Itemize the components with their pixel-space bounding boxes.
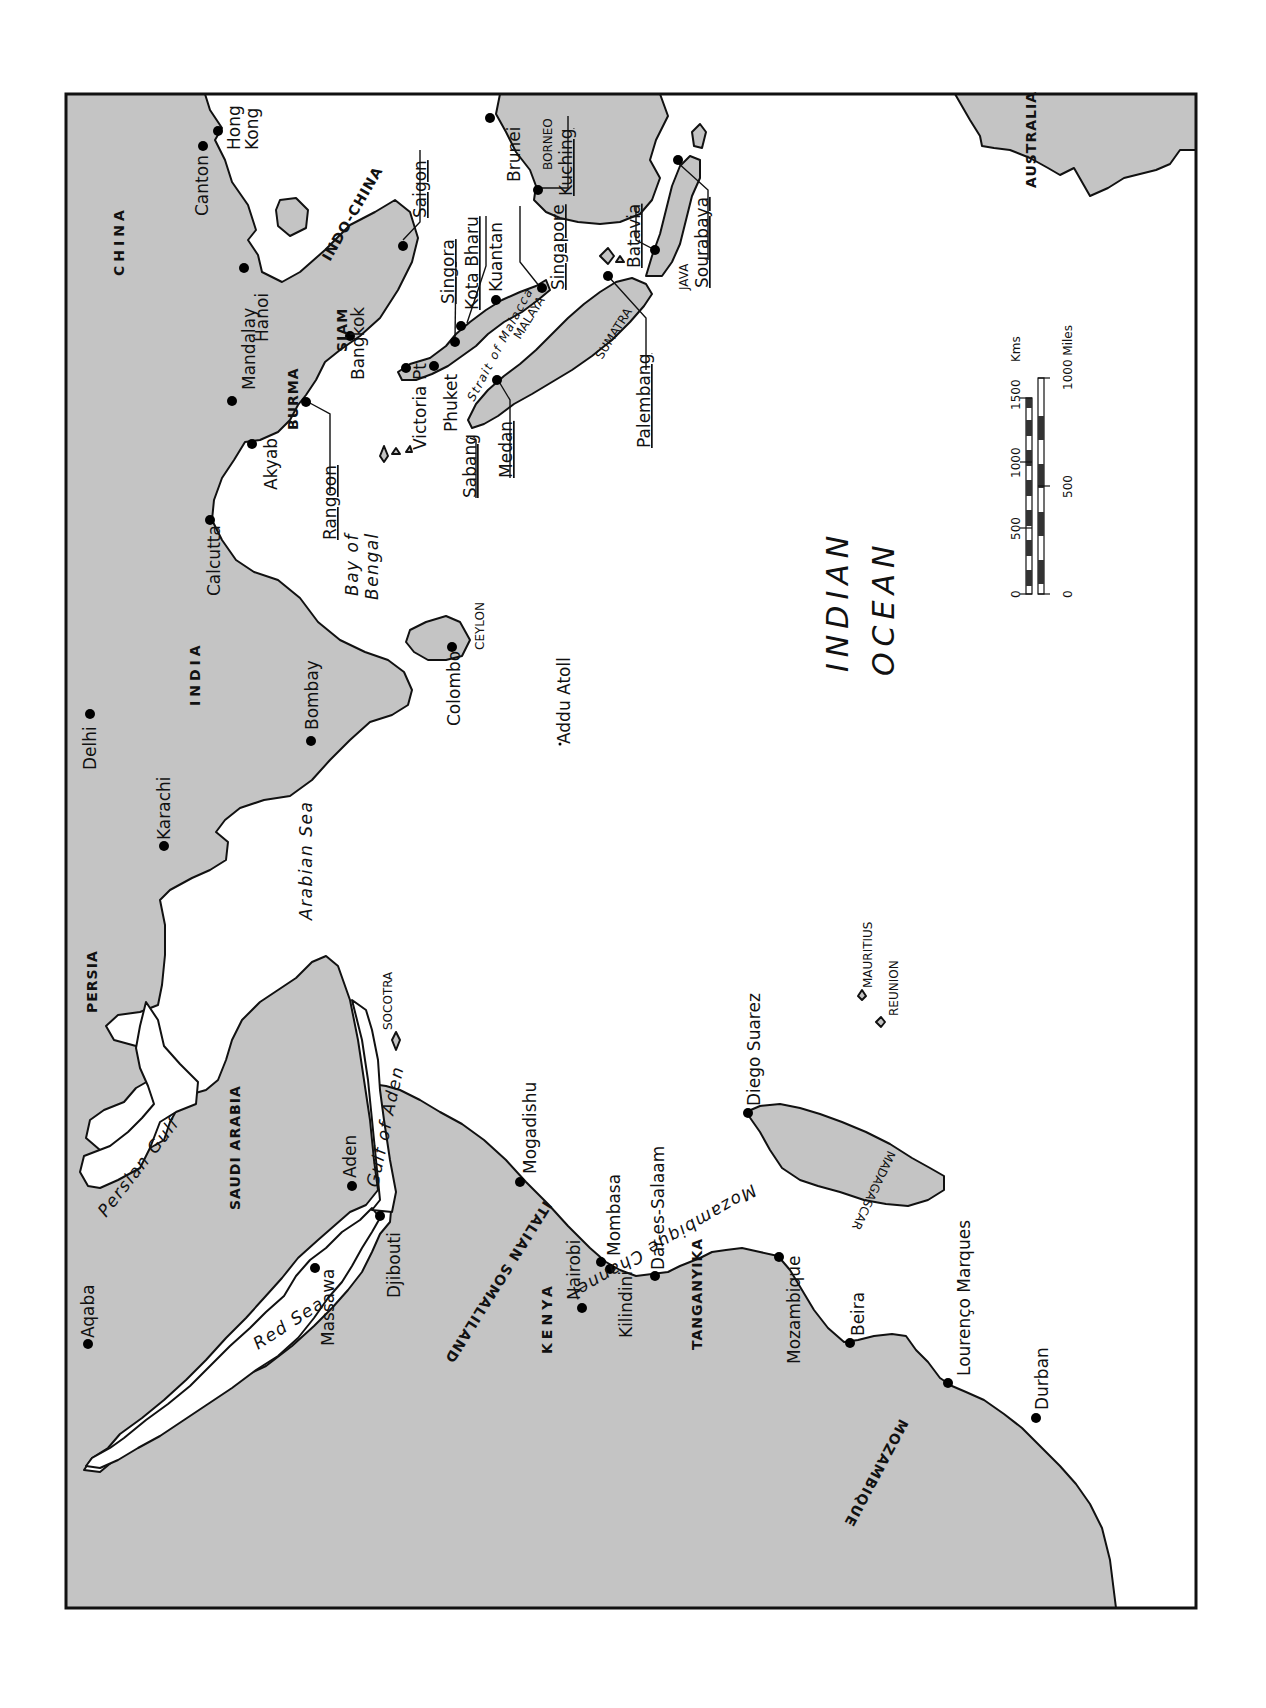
dot-delhi [85,709,95,719]
label-bay-of: Bay of [342,532,362,596]
dot-akyab [247,439,257,449]
dot-nairobi [577,1303,587,1313]
label-singora: Singora [438,239,458,304]
dot-saigon [398,241,408,251]
label-burma: BURMA [285,367,301,430]
label-ocean: OCEAN [866,540,901,676]
dot-sourabaya [673,155,683,165]
label-rangoon: Rangoon [320,465,340,540]
label-sourabaya: Sourabaya [692,197,712,288]
scale-kms-500: 500 [1009,517,1023,540]
dot-mandalay [227,396,237,406]
label-canton: Canton [192,155,212,216]
label-ceylon: CEYLON [473,602,487,650]
dot-bombay [306,736,316,746]
label-china: CHINA [111,206,127,276]
label-mozambique-city: Mozambique [784,1255,804,1364]
dot-djibouti [375,1211,385,1221]
label-bombay: Bombay [302,660,322,730]
label-lourenco-marques: Lourenço Marques [954,1220,974,1376]
dot-mogadishu [515,1177,525,1187]
label-hong: Hong [224,105,244,150]
scale-kms-1500: 1500 [1009,379,1023,410]
scale-kms-1000: 1000 [1009,447,1023,478]
label-mauritius: MAURITIUS [861,922,875,989]
dot-batavia [650,245,660,255]
dot-kota-bharu [456,321,466,331]
dot-palembang [603,271,613,281]
dot-hanoi [239,263,249,273]
label-massawa: Massawa [318,1268,338,1346]
label-saudi-arabia: SAUDI ARABIA [227,1085,243,1210]
dot-phuket [429,361,439,371]
label-batavia: Batavia [624,204,644,268]
label-brunei: Brunei [504,127,524,182]
label-durban: Durban [1032,1347,1052,1410]
label-victoria-pt: Victoria Pt [410,363,430,450]
scale-miles-0: 0 [1061,590,1075,598]
dot-rangoon [301,397,311,407]
dot-singapore [537,283,547,293]
dot-lourenco-marques [943,1378,953,1388]
label-phuket: Phuket [441,374,461,432]
label-mombasa: Mombasa [604,1174,624,1256]
label-kuching: Kuching [556,129,576,197]
dot-kuching [533,185,543,195]
label-palembang: Palembang [634,354,654,448]
label-persia: PERSIA [84,950,100,1013]
label-djibouti: Djibouti [384,1232,404,1298]
label-arabian-sea: Arabian Sea [296,801,316,921]
label-reunion: REUNION [887,960,901,1016]
dot-dar-es-salaam [650,1271,660,1281]
label-kota-bharu: Kota Bharu [462,216,482,310]
label-saigon: Saigon [410,160,430,218]
dot-singora [450,337,460,347]
label-india: INDIA [187,641,203,706]
label-socotra: SOCOTRA [381,971,395,1030]
label-beira: Beira [848,1292,868,1336]
scale-miles-500: 500 [1061,475,1075,498]
scale-kms-0: 0 [1009,590,1023,598]
label-kenya: KENYA [539,1282,555,1354]
label-diego-suarez: Diego Suarez [744,993,764,1106]
label-singapore: Singapore [548,204,568,290]
dot-medan [492,375,502,385]
label-delhi: Delhi [80,726,100,770]
dot-beira [845,1338,855,1348]
scale-miles-label: 1000 Miles [1061,325,1075,390]
label-karachi: Karachi [154,776,174,840]
label-dar-es-salaam: Dar-es-Salaam [648,1146,668,1270]
indian-ocean-map: CHINA INDO-CHINA SIAM BURMA INDIA PERSIA… [0,0,1266,1708]
label-indian: INDIAN [820,530,855,672]
dot-durban [1031,1413,1041,1423]
label-kilindini: Kilindini [616,1271,636,1338]
label-sabang: Sabang [460,434,480,498]
dot-hong-kong [213,126,223,136]
label-mandalay: Mandalay [239,308,259,390]
label-kong: Kong [242,108,262,150]
label-bangkok: Bangkok [348,307,368,380]
label-nairobi: Nairobi [564,1240,584,1300]
label-aden: Aden [340,1135,360,1178]
dot-kuantan [491,295,501,305]
dot-mozambique [774,1252,784,1262]
label-akyab: Akyab [261,438,281,490]
dot-aden [347,1181,357,1191]
dot-calcutta [205,515,215,525]
label-colombo: Colombo [444,651,464,726]
label-tanganyika: TANGANYIKA [689,1238,705,1350]
dot-karachi [159,841,169,851]
label-medan: Medan [496,421,516,478]
scale-kms-label: Kms [1009,336,1023,362]
label-addu-atoll: Addu Atoll [554,657,574,744]
label-australia: AUSTRALIA [1023,91,1039,188]
dot-aqaba [83,1339,93,1349]
dot-canton [198,141,208,151]
label-borneo: BORNEO [541,118,555,170]
label-kuantan: Kuantan [486,222,506,292]
label-aqaba: Aqaba [78,1284,98,1338]
dot-diego-suarez [743,1108,753,1118]
dot-brunei [485,113,495,123]
label-mogadishu: Mogadishu [520,1082,540,1174]
dot-colombo [447,642,457,652]
